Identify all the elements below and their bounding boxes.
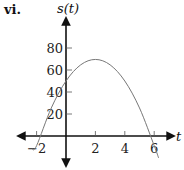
y-tick-label: 80	[46, 41, 63, 56]
y-tick-label: 60	[46, 63, 63, 78]
y-axis-label: s(t)	[57, 1, 79, 16]
x-tick-label: 2	[91, 141, 99, 156]
x-tick-label: −2	[27, 141, 46, 156]
y-tick-label: 40	[46, 85, 63, 100]
x-tick-label: 4	[121, 141, 129, 156]
ticks: −224620406080	[27, 41, 158, 156]
figure-label: vi.	[3, 2, 21, 17]
x-axis-label: t	[176, 129, 182, 144]
chart: vi. s(t) t −224620406080	[0, 0, 184, 170]
